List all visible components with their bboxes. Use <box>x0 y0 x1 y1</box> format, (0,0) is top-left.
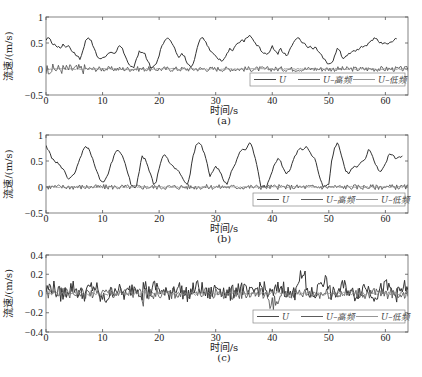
legend-entry: U <box>279 75 287 85</box>
x-tick-label: 50 <box>324 95 334 106</box>
y-tick-label: −0.5 <box>25 208 43 219</box>
legend-entry: U–低频 <box>381 312 411 322</box>
x-tick-label: 20 <box>154 95 164 106</box>
y-tick-label: −0.2 <box>25 307 43 318</box>
x-tick-label: 60 <box>380 95 390 106</box>
panel-label: (c) <box>217 352 231 363</box>
y-tick-label: 0.4 <box>31 250 44 261</box>
figure: 0102030405060−0.500.51流速/(m/s)时间/s(a)UU–… <box>0 0 422 377</box>
legend: UU–高频U–低频 <box>253 193 411 206</box>
x-tick-label: 20 <box>154 332 164 343</box>
x-tick-label: 0 <box>44 332 49 343</box>
x-tick-label: 40 <box>267 95 277 106</box>
y-tick-label: −0.4 <box>25 327 43 338</box>
y-tick-label: 0 <box>38 288 43 299</box>
x-tick-label: 20 <box>154 213 164 224</box>
y-axis-title: 流速/(m/s) <box>2 149 14 198</box>
x-tick-label: 60 <box>380 213 390 224</box>
y-tick-label: 1 <box>38 130 43 141</box>
legend-entry: U <box>282 195 290 205</box>
y-tick-label: 0 <box>38 64 43 75</box>
x-tick-label: 40 <box>267 213 277 224</box>
y-tick-label: 1 <box>38 12 43 23</box>
y-tick-label: 0 <box>38 182 43 193</box>
panel-label: (a) <box>217 115 231 126</box>
panel-a: 0102030405060−0.500.51流速/(m/s)时间/s(a)UU–… <box>2 12 408 127</box>
y-axis-title: 流速/(m/s) <box>2 269 14 318</box>
legend-entry: U–低频 <box>378 75 408 85</box>
legend: UU–高频U–低频 <box>250 73 408 86</box>
y-axis-title: 流速/(m/s) <box>2 31 14 80</box>
panel-label: (b) <box>217 233 231 244</box>
legend: UU–高频U–低频 <box>253 310 411 323</box>
x-tick-label: 50 <box>324 213 334 224</box>
x-tick-label: 0 <box>44 95 49 106</box>
x-tick-label: 40 <box>267 332 277 343</box>
x-tick-label: 10 <box>98 213 108 224</box>
x-tick-label: 10 <box>98 332 108 343</box>
legend-entry: U <box>282 312 290 322</box>
x-tick-label: 60 <box>380 332 390 343</box>
panel-c: 0102030405060−0.4−0.200.20.4流速/(m/s)时间/s… <box>2 250 411 364</box>
panel-b: 0102030405060−0.500.51流速/(m/s)时间/s(b)UU–… <box>2 130 411 245</box>
y-tick-label: 0.2 <box>31 269 44 280</box>
x-tick-label: 0 <box>44 213 49 224</box>
legend-entry: U–高频 <box>323 75 353 85</box>
x-tick-label: 50 <box>324 332 334 343</box>
legend-entry: U–高频 <box>326 195 356 205</box>
y-tick-label: 0.5 <box>31 156 44 167</box>
legend-entry: U–低频 <box>381 195 411 205</box>
y-tick-label: −0.5 <box>25 90 43 101</box>
y-tick-label: 0.5 <box>31 38 44 49</box>
legend-entry: U–高频 <box>326 312 356 322</box>
x-tick-label: 10 <box>98 95 108 106</box>
